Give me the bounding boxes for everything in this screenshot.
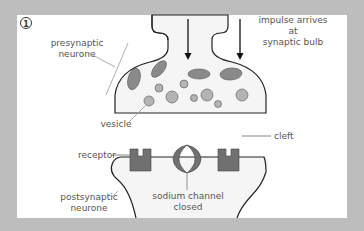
impulse-label: impulse arrives at synaptic bulb [258, 15, 327, 47]
svg-text:cleft: cleft [274, 131, 294, 141]
synapse-diagram: 1 presynaptic neurone impulse [0, 0, 364, 231]
svg-text:closed: closed [174, 202, 203, 212]
svg-text:impulse arrives: impulse arrives [258, 15, 327, 25]
receptor-right [218, 149, 239, 171]
svg-text:synaptic bulb: synaptic bulb [263, 37, 324, 47]
svg-text:sodium channel: sodium channel [152, 191, 223, 201]
cleft-label: cleft [242, 131, 294, 141]
receptor-left [130, 149, 151, 171]
step-number: 1 [23, 20, 29, 29]
svg-text:neurone: neurone [70, 203, 108, 213]
svg-text:presynaptic: presynaptic [51, 38, 104, 48]
svg-text:at: at [288, 26, 298, 36]
presynaptic-label: presynaptic neurone [51, 38, 128, 95]
svg-text:postsynaptic: postsynaptic [60, 192, 117, 202]
svg-text:receptor: receptor [78, 150, 116, 160]
svg-text:vesicle: vesicle [100, 119, 132, 129]
step-number-badge: 1 [21, 18, 32, 29]
postsynaptic-label: postsynaptic neurone [60, 191, 118, 213]
